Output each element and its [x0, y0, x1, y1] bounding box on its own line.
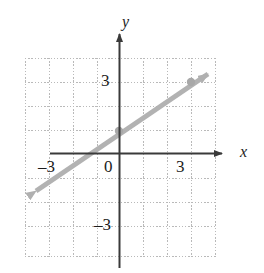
x-tick-label-3: 3	[176, 158, 185, 175]
y-axis-label: y	[122, 14, 129, 30]
x-axis-label: x	[240, 144, 247, 160]
x-tick-label-zero: 0	[104, 158, 113, 175]
coordinate-plane-svg	[0, 0, 264, 273]
plotted-point-second	[187, 78, 195, 86]
y-tick-label-neg3: –3	[94, 216, 111, 233]
y-tick-label-3: 3	[101, 72, 110, 89]
graph-figure: y x –3 0 3 3 –3	[0, 0, 264, 273]
x-tick-label-neg3: –3	[38, 158, 55, 175]
